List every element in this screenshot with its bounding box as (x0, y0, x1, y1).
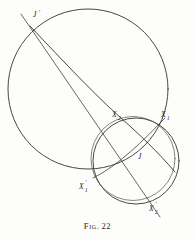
label-j: J (138, 152, 142, 161)
secant-line (21, 14, 160, 217)
geometric-figure-canvas: J ′ X 2 X 1 J X 1 ′ X 2 ′ (0, 0, 195, 240)
large-circle (8, 9, 168, 169)
figure-caption-number: 22 (101, 221, 111, 231)
label-j-prime-base: J (33, 10, 37, 19)
label-j-prime: J ′ (33, 8, 41, 19)
label-x2-base: X (111, 110, 117, 119)
label-x1-base: X (160, 110, 166, 119)
label-x2-prime-sub: 2 (155, 209, 158, 215)
label-x1-prime: X 1 ′ (78, 178, 88, 193)
label-x1: X 1 (160, 110, 170, 121)
label-x2: X 2 (111, 110, 121, 121)
label-x1-prime-mark: ′ (85, 178, 87, 186)
label-x2-sub: 2 (118, 115, 121, 121)
figure-caption-prefix: Fig. (84, 221, 100, 231)
oblique-arc (30, 26, 175, 172)
chord-x1prime-x1 (93, 118, 165, 178)
label-x2-prime-base: X (148, 204, 154, 213)
label-x2-prime-mark: ′ (155, 200, 157, 208)
figure-container: J ′ X 2 X 1 J X 1 ′ X 2 ′ Fig.2 (0, 0, 195, 240)
label-x1-sub: 1 (167, 115, 170, 121)
label-j-base: J (138, 152, 142, 161)
label-x1-prime-sub: 1 (85, 187, 88, 193)
label-x1-prime-base: X (78, 182, 84, 191)
label-j-prime-mark: ′ (39, 8, 41, 16)
small-circle-outer (93, 118, 179, 204)
figure-caption: Fig.22 (0, 221, 195, 231)
